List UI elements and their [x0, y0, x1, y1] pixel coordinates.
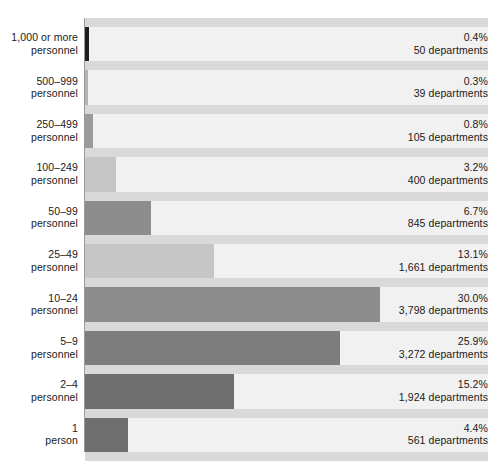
value-label: 25.9%3,272 departments [399, 335, 488, 360]
category-label: 25–49personnel [0, 248, 78, 273]
value-label: 13.1%1,661 departments [399, 248, 488, 273]
category-label: 100–249personnel [0, 161, 78, 186]
row-separator [85, 278, 488, 287]
value-percent: 0.4% [414, 31, 488, 44]
category-label: 5–9personnel [0, 335, 78, 360]
value-count: 400 departments [408, 174, 488, 187]
row-separator [85, 409, 488, 418]
value-count: 3,272 departments [399, 348, 488, 361]
category-label: 1,000 or morepersonnel [0, 31, 78, 56]
category-label-line2: personnel [0, 87, 78, 100]
category-label-line2: personnel [0, 391, 78, 404]
category-label-line2: personnel [0, 304, 78, 317]
value-percent: 6.7% [408, 205, 488, 218]
value-count: 3,798 departments [399, 304, 488, 317]
bar [85, 287, 380, 321]
category-label-line2: person [0, 434, 78, 447]
category-label-line1: 250–499 [0, 118, 78, 131]
value-count: 1,924 departments [399, 391, 488, 404]
value-label: 6.7%845 departments [408, 205, 488, 230]
bar [85, 201, 151, 235]
category-label-line1: 2–4 [0, 378, 78, 391]
category-label-line1: 1,000 or more [0, 31, 78, 44]
value-percent: 25.9% [399, 335, 488, 348]
category-label-line2: personnel [0, 217, 78, 230]
row-separator [85, 148, 488, 157]
category-label-line1: 100–249 [0, 161, 78, 174]
category-label-line1: 10–24 [0, 292, 78, 305]
category-label-line1: 50–99 [0, 205, 78, 218]
row-separator [85, 192, 488, 201]
value-label: 0.4%50 departments [414, 31, 488, 56]
value-label: 4.4%561 departments [408, 422, 488, 447]
category-label-line1: 25–49 [0, 248, 78, 261]
category-label-line1: 5–9 [0, 335, 78, 348]
bar [85, 70, 88, 104]
value-label: 0.3%39 departments [414, 75, 488, 100]
value-count: 561 departments [408, 434, 488, 447]
value-count: 50 departments [414, 44, 488, 57]
value-percent: 4.4% [408, 422, 488, 435]
category-label-line2: personnel [0, 44, 78, 57]
value-label: 0.8%105 departments [408, 118, 488, 143]
bar [85, 374, 234, 408]
value-count: 39 departments [414, 87, 488, 100]
category-label-line2: personnel [0, 348, 78, 361]
value-percent: 30.0% [399, 292, 488, 305]
category-label-line1: 500–999 [0, 75, 78, 88]
category-label-line2: personnel [0, 261, 78, 274]
value-percent: 13.1% [399, 248, 488, 261]
row-separator [85, 105, 488, 114]
bar [85, 114, 93, 148]
category-label: 500–999personnel [0, 75, 78, 100]
row-separator [85, 61, 488, 70]
category-label: 250–499personnel [0, 118, 78, 143]
value-label: 15.2%1,924 departments [399, 378, 488, 403]
bar-chart: 1,000 or morepersonnel0.4%50 departments… [0, 0, 496, 466]
row-separator [85, 18, 488, 27]
value-count: 1,661 departments [399, 261, 488, 274]
value-label: 30.0%3,798 departments [399, 292, 488, 317]
bar [85, 27, 89, 61]
category-label: 1person [0, 422, 78, 447]
bar [85, 244, 214, 278]
category-label-line2: personnel [0, 131, 78, 144]
value-count: 845 departments [408, 217, 488, 230]
row-separator-bottom [85, 452, 488, 461]
category-label: 50–99personnel [0, 205, 78, 230]
row-separator [85, 322, 488, 331]
category-label: 10–24personnel [0, 292, 78, 317]
bar [85, 418, 128, 452]
value-label: 3.2%400 departments [408, 161, 488, 186]
category-label-line2: personnel [0, 174, 78, 187]
value-percent: 15.2% [399, 378, 488, 391]
category-label: 2–4personnel [0, 378, 78, 403]
value-percent: 0.3% [414, 75, 488, 88]
category-label-line1: 1 [0, 422, 78, 435]
value-percent: 3.2% [408, 161, 488, 174]
bar [85, 331, 340, 365]
row-separator [85, 235, 488, 244]
value-percent: 0.8% [408, 118, 488, 131]
bar [85, 157, 116, 191]
value-count: 105 departments [408, 131, 488, 144]
row-separator [85, 365, 488, 374]
